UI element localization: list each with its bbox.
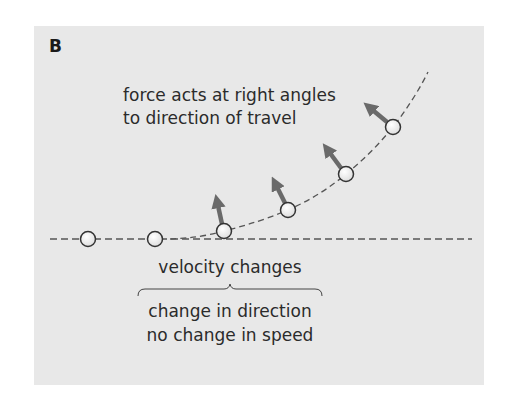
ball-4 [281,203,296,218]
force-arrow-2 [275,183,285,203]
force-arrow-1 [217,201,222,224]
force-label-line-2: to direction of travel [123,107,296,129]
velocity-label: velocity changes [158,256,301,278]
explanation-line-1: change in direction [148,300,311,322]
force-label-line-1: force acts at right angles [123,84,336,106]
ball-5 [339,167,354,182]
explanation-line-2: no change in speed [147,324,314,346]
ball-6 [386,120,401,135]
force-arrow-4 [369,107,387,122]
balls [81,120,401,247]
ball-3 [217,224,232,239]
panel-label: B [49,36,62,56]
ball-2 [148,232,163,247]
force-arrow-3 [327,149,341,168]
curly-brace [138,284,322,296]
ball-1 [81,232,96,247]
